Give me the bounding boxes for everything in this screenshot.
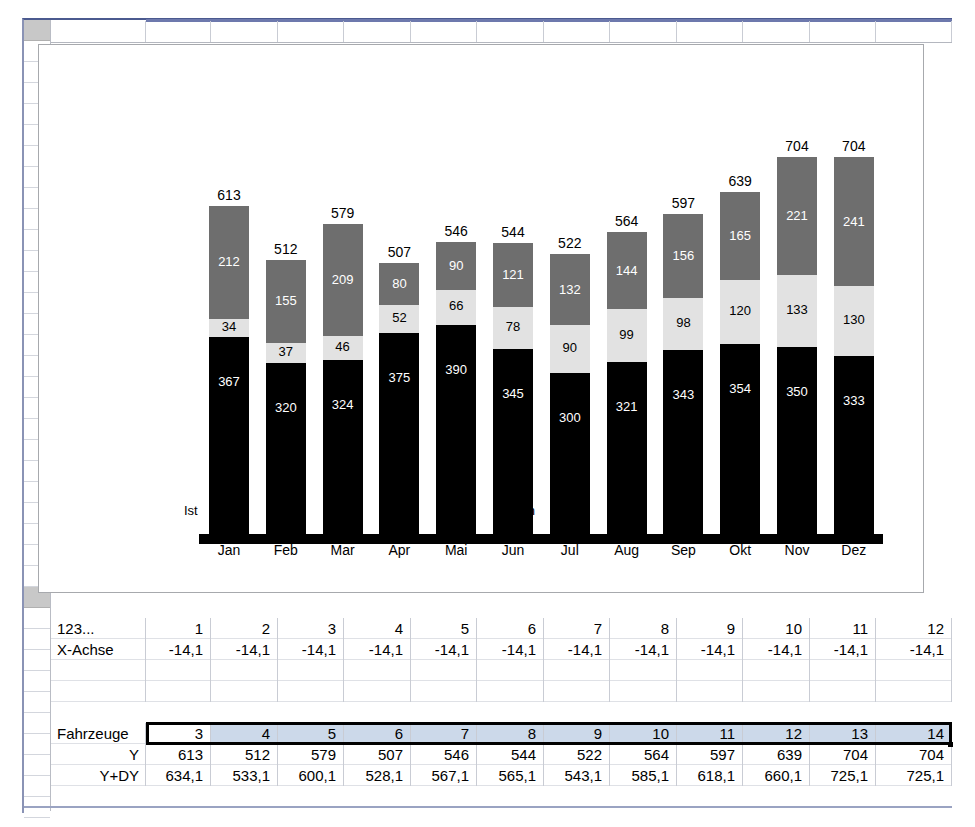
table-cell[interactable]: 8 — [477, 723, 544, 744]
table-cell[interactable] — [278, 660, 344, 681]
table-cell[interactable] — [743, 660, 810, 681]
chart-bar[interactable]: 165120354 — [720, 192, 760, 534]
table-row[interactable] — [51, 660, 952, 681]
table-cell[interactable]: -14,1 — [211, 639, 278, 660]
worksheet-cell[interactable] — [477, 21, 544, 43]
worksheet-cell[interactable] — [278, 21, 344, 43]
chart-bar[interactable]: 241130333 — [834, 157, 874, 534]
table-row[interactable]: X-Achse-14,1-14,1-14,1-14,1-14,1-14,1-14… — [51, 639, 952, 660]
table-cell[interactable]: 7 — [411, 723, 477, 744]
table-cell[interactable] — [146, 660, 211, 681]
table-cell[interactable]: 12 — [743, 723, 810, 744]
table-cell[interactable]: 8 — [610, 618, 677, 639]
table-row-label[interactable]: Fahrzeuge — [51, 723, 146, 744]
table-row[interactable]: Y613512579507546544522564597639704704 — [51, 744, 952, 765]
table-cell[interactable] — [544, 660, 610, 681]
selection-fill-handle[interactable] — [948, 742, 953, 747]
worksheet-cell[interactable] — [544, 21, 610, 43]
chart-bar[interactable]: 9066390 — [436, 242, 476, 534]
table-cell[interactable]: -14,1 — [544, 639, 610, 660]
table-cell[interactable] — [743, 681, 810, 702]
table-cell[interactable]: 2 — [211, 618, 278, 639]
table-cell[interactable] — [810, 681, 876, 702]
table-cell[interactable]: 5 — [411, 618, 477, 639]
table-cell[interactable] — [544, 681, 610, 702]
table-cell[interactable] — [211, 660, 278, 681]
worksheet-cell[interactable] — [876, 21, 952, 43]
table-cell[interactable] — [610, 660, 677, 681]
row-header-cell[interactable] — [24, 20, 50, 41]
table-cell[interactable]: 546 — [411, 744, 477, 765]
table-row-label[interactable]: Y — [51, 744, 146, 765]
table-cell[interactable] — [211, 681, 278, 702]
table-cell[interactable]: 600,1 — [278, 765, 344, 786]
table-cell[interactable]: 533,1 — [211, 765, 278, 786]
row-header-cell[interactable] — [24, 776, 50, 797]
table-cell[interactable] — [677, 681, 743, 702]
worksheet-cell[interactable] — [146, 21, 211, 43]
table-cell[interactable]: -14,1 — [743, 639, 810, 660]
chart-bar[interactable]: 15698343 — [663, 214, 703, 534]
table-cell[interactable] — [411, 681, 477, 702]
chart-bar[interactable]: 8052375 — [379, 263, 419, 534]
table-cell[interactable]: 528,1 — [344, 765, 411, 786]
table-cell[interactable]: 704 — [810, 744, 876, 765]
table-cell[interactable]: 14 — [876, 723, 952, 744]
table-cell[interactable]: 7 — [544, 618, 610, 639]
table-cell[interactable] — [610, 681, 677, 702]
worksheet-cell[interactable] — [51, 21, 146, 43]
data-table[interactable]: 123...123456789101112X-Achse-14,1-14,1-1… — [51, 597, 952, 811]
chart-bar[interactable]: 21234367 — [209, 206, 249, 534]
table-cell[interactable] — [876, 681, 952, 702]
table-cell[interactable]: -14,1 — [411, 639, 477, 660]
table-cell[interactable] — [677, 660, 743, 681]
chart-bar[interactable]: 15537320 — [266, 260, 306, 534]
embedded-chart-object[interactable]: 613Jan21234367512Feb15537320579Mar209463… — [38, 44, 924, 593]
table-cell[interactable] — [810, 660, 876, 681]
table-cell[interactable]: 522 — [544, 744, 610, 765]
table-cell[interactable] — [278, 681, 344, 702]
table-cell[interactable]: 12 — [876, 618, 952, 639]
row-header-cell[interactable] — [24, 671, 50, 692]
table-cell[interactable]: -14,1 — [677, 639, 743, 660]
table-row-label[interactable]: Y+DY — [51, 765, 146, 786]
table-cell[interactable]: 3 — [278, 618, 344, 639]
table-cell[interactable] — [146, 681, 211, 702]
table-cell[interactable]: 4 — [211, 723, 278, 744]
table-cell[interactable]: 597 — [677, 744, 743, 765]
table-cell[interactable] — [876, 660, 952, 681]
table-cell[interactable]: 10 — [743, 618, 810, 639]
table-cell[interactable]: 544 — [477, 744, 544, 765]
row-header-cell[interactable] — [24, 692, 50, 713]
table-row[interactable]: Fahrzeuge34567891011121314 — [51, 723, 952, 744]
table-cell[interactable]: 6 — [477, 618, 544, 639]
table-cell[interactable]: 507 — [344, 744, 411, 765]
table-cell[interactable]: 613 — [146, 744, 211, 765]
table-row-label[interactable]: X-Achse — [51, 639, 146, 660]
table-row[interactable]: 123...123456789101112 — [51, 618, 952, 639]
table-cell[interactable] — [477, 660, 544, 681]
table-cell[interactable]: 725,1 — [810, 765, 876, 786]
table-cell[interactable]: 10 — [610, 723, 677, 744]
row-header-cell[interactable] — [24, 608, 50, 629]
table-row-label[interactable] — [51, 681, 146, 702]
table-cell[interactable]: 618,1 — [677, 765, 743, 786]
table-cell[interactable]: -14,1 — [278, 639, 344, 660]
table-cell[interactable]: -14,1 — [344, 639, 411, 660]
row-header-cell[interactable] — [24, 629, 50, 650]
table-cell[interactable]: -14,1 — [477, 639, 544, 660]
table-row[interactable]: Y+DY634,1533,1600,1528,1567,1565,1543,15… — [51, 765, 952, 786]
table-cell[interactable]: 512 — [211, 744, 278, 765]
table-cell[interactable]: 1 — [146, 618, 211, 639]
table-cell[interactable] — [411, 660, 477, 681]
table-cell[interactable]: 6 — [344, 723, 411, 744]
row-header-cell[interactable] — [24, 755, 50, 776]
table-cell[interactable]: 579 — [278, 744, 344, 765]
table-cell[interactable]: 3 — [146, 723, 211, 744]
table-cell[interactable]: 585,1 — [610, 765, 677, 786]
table-cell[interactable]: 13 — [810, 723, 876, 744]
worksheet-cell[interactable] — [743, 21, 810, 43]
chart-bar[interactable]: 14499321 — [607, 232, 647, 534]
chart-bar[interactable]: 20946324 — [323, 224, 363, 534]
row-header-cell[interactable] — [24, 734, 50, 755]
